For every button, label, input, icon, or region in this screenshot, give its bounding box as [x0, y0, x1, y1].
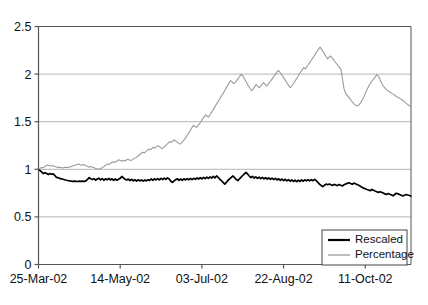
x-tick-label-3: 22-Aug-02	[254, 272, 312, 286]
legend-label-rescaled[interactable]: Rescaled	[355, 233, 403, 245]
series-line-rescaled	[39, 169, 412, 196]
chart-container: 00.511.522.5 25-Mar-0214-May-0203-Jul-02…	[0, 0, 428, 305]
gridlines	[39, 27, 412, 217]
x-axis-tick-labels: 25-Mar-0214-May-0203-Jul-0222-Aug-0211-O…	[10, 265, 393, 286]
chart-legend[interactable]: RescaledPercentage	[322, 230, 414, 265]
legend-label-percentage[interactable]: Percentage	[355, 248, 414, 260]
y-tick-label-1: 0.5	[14, 210, 31, 224]
x-tick-label-4: 11-Oct-02	[338, 272, 393, 286]
series-line-percentage	[39, 47, 412, 170]
y-tick-label-4: 2	[25, 68, 32, 82]
x-tick-label-0: 25-Mar-02	[10, 272, 68, 286]
y-axis-tick-labels: 00.511.522.5	[14, 20, 38, 272]
y-tick-label-5: 2.5	[14, 20, 31, 34]
y-tick-label-3: 1.5	[14, 115, 31, 129]
x-tick-label-2: 03-Jul-02	[176, 272, 228, 286]
axes	[39, 27, 412, 265]
y-tick-label-0: 0	[25, 258, 32, 272]
line-chart: 00.511.522.5 25-Mar-0214-May-0203-Jul-02…	[0, 0, 428, 305]
x-tick-label-1: 14-May-02	[90, 272, 150, 286]
y-tick-label-2: 1	[25, 163, 32, 177]
